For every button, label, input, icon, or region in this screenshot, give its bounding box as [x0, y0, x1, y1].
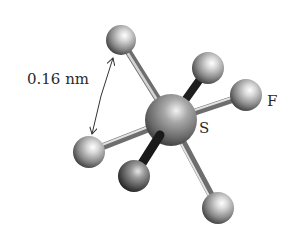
atom-f-top-left	[106, 25, 136, 55]
atom-f-bottom-right	[202, 192, 234, 224]
distance-arrow	[101, 58, 113, 96]
atom-f-upper-back	[192, 52, 224, 84]
atom-f-left	[73, 136, 105, 168]
distance-label: 0.16 nm	[27, 70, 89, 88]
sulfur-label: S	[199, 119, 209, 137]
atom-f-right	[230, 79, 262, 111]
sf6-molecule-diagram: 0.16 nm F S	[0, 0, 300, 237]
atom-f-lower-front	[118, 160, 150, 192]
fluorine-label: F	[267, 92, 277, 110]
